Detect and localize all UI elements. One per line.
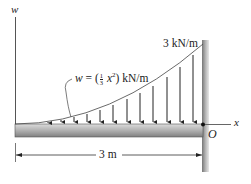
origin-label: O — [208, 127, 217, 142]
load-equation: ww = ( = (13 x2) kN/m — [75, 71, 148, 86]
fixed-wall — [202, 40, 209, 172]
equation-w: w — [75, 72, 83, 84]
x-axis-label: x — [234, 116, 239, 128]
origin-point — [201, 123, 205, 127]
span-label: 3 m — [99, 148, 117, 160]
equation-suffix: ) kN/m — [115, 72, 148, 84]
equation-fraction: 13 — [100, 73, 103, 86]
diagram-graphics — [0, 0, 251, 184]
beam-load-diagram: w x O 3 kN/m ww = ( = (13 x2) kN/m 3 m — [0, 0, 251, 184]
equation-eq: = ( — [83, 72, 99, 84]
w-axis-label: w — [11, 3, 18, 15]
equation-leader — [65, 79, 72, 117]
fraction-den: 3 — [100, 80, 103, 86]
beam — [15, 124, 203, 137]
max-load-label: 3 kN/m — [163, 37, 198, 49]
